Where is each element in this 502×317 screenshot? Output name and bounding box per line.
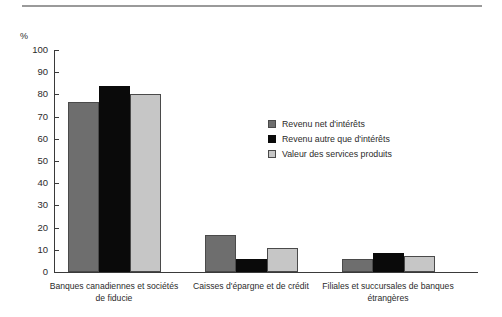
bar — [236, 259, 267, 272]
legend-item: Revenu autre que d'intérêts — [268, 133, 392, 146]
y-axis-tick — [54, 50, 59, 51]
legend-swatch-icon — [268, 135, 276, 143]
y-axis-tick-label: 60 — [14, 134, 48, 144]
y-axis-tick-label: 90 — [14, 67, 48, 77]
y-axis-tick — [54, 139, 59, 140]
bar — [99, 86, 130, 272]
y-axis-tick — [54, 94, 59, 95]
legend-item: Revenu net d'intérêts — [268, 118, 392, 131]
bar — [130, 94, 161, 272]
legend-label: Valeur des services produits — [282, 150, 392, 159]
y-axis-tick-label: 10 — [14, 245, 48, 255]
y-axis-tick-label: 40 — [14, 178, 48, 188]
category-label-line: Banques canadiennes et sociétés — [29, 281, 199, 293]
legend-label: Revenu net d'intérêts — [282, 120, 365, 129]
y-axis-tick — [54, 117, 59, 118]
legend-swatch-icon — [268, 150, 276, 158]
legend-swatch-icon — [268, 120, 276, 128]
y-axis-tick-label: 50 — [14, 156, 48, 166]
y-axis-tick-label: 30 — [14, 200, 48, 210]
x-axis-category-label: Banques canadiennes et sociétésde fiduci… — [29, 281, 199, 304]
x-axis-category-label: Filiales et succursales de banquesétrang… — [303, 281, 473, 304]
category-label-line: de fiducie — [29, 293, 199, 305]
y-axis-tick — [54, 161, 59, 162]
bar — [404, 256, 435, 272]
y-axis-unit-label: % — [20, 31, 28, 41]
y-axis-tick — [54, 272, 59, 273]
bar — [267, 248, 298, 272]
y-axis-tick-label: 100 — [14, 45, 48, 55]
bar — [205, 235, 236, 272]
bar — [342, 259, 373, 272]
legend-label: Revenu autre que d'intérêts — [282, 135, 390, 144]
bar-chart: % 0102030405060708090100 Banques canadie… — [0, 0, 502, 317]
chart-legend: Revenu net d'intérêtsRevenu autre que d'… — [268, 118, 392, 163]
y-axis-tick-label: 0 — [14, 267, 48, 277]
y-axis-tick-label: 70 — [14, 112, 48, 122]
bar — [373, 253, 404, 272]
y-axis-tick — [54, 183, 59, 184]
x-axis-line — [54, 272, 478, 273]
y-axis-tick — [54, 205, 59, 206]
y-axis-tick — [54, 72, 59, 73]
bar — [68, 102, 99, 272]
category-label-line: Filiales et succursales de banques — [303, 281, 473, 293]
y-axis-tick — [54, 250, 59, 251]
legend-item: Valeur des services produits — [268, 148, 392, 161]
y-axis-tick-label: 80 — [14, 89, 48, 99]
y-axis-tick — [54, 228, 59, 229]
y-axis-tick-label: 20 — [14, 223, 48, 233]
category-label-line: étrangères — [303, 293, 473, 305]
